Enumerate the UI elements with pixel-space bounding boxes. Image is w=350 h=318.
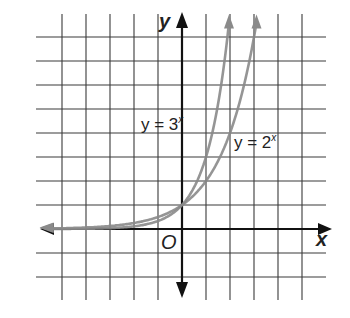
curve-3x — [48, 25, 229, 229]
curve-3x-arrow-icon — [224, 15, 234, 29]
x-axis-label: x — [316, 228, 327, 251]
curve-label-2x-base: y = 2 — [234, 133, 271, 152]
axes — [40, 12, 332, 298]
exponential-graph — [0, 0, 350, 318]
curve-label-3x-base: y = 3 — [141, 115, 178, 134]
origin-label: O — [161, 231, 177, 254]
curve-label-3x: y = 3x — [141, 114, 183, 135]
curve-2x-arrow-icon — [252, 15, 262, 29]
y-axis-down-arrow-icon — [176, 282, 188, 298]
y-axis-up-arrow-icon — [176, 12, 188, 28]
curve-label-3x-exp: x — [178, 114, 183, 125]
curve-label-2x-exp: x — [271, 132, 276, 143]
curve-label-2x: y = 2x — [234, 132, 276, 153]
y-axis-label: y — [159, 10, 170, 33]
